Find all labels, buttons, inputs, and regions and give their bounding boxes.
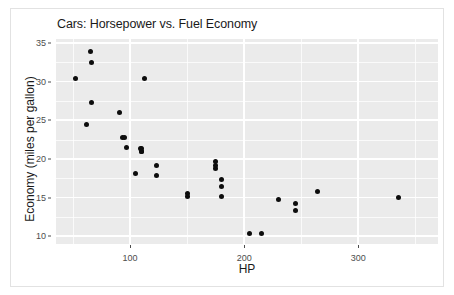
gridline-major-vertical <box>357 39 359 244</box>
y-tick-label: 25 <box>36 115 46 125</box>
scatter-point <box>124 145 129 150</box>
scatter-point <box>276 197 281 202</box>
scatter-point <box>315 189 320 194</box>
y-tick-label: 10 <box>36 231 46 241</box>
gridline-major-horizontal <box>56 158 438 160</box>
scatter-point <box>88 49 93 54</box>
gridline-minor-vertical <box>73 39 74 244</box>
gridline-minor-horizontal <box>56 178 438 179</box>
chart-title: Cars: Horsepower vs. Fuel Economy <box>57 17 257 31</box>
gridline-minor-horizontal <box>56 62 438 63</box>
y-tick-mark <box>48 158 51 159</box>
scatter-point <box>219 184 224 189</box>
gridline-major-vertical <box>243 39 245 244</box>
scatter-point <box>133 171 138 176</box>
scatter-point <box>213 159 218 164</box>
scatter-point <box>138 146 143 151</box>
scatter-point <box>293 201 298 206</box>
gridline-major-horizontal <box>56 235 438 237</box>
scatter-point <box>185 194 190 199</box>
scatter-point <box>396 195 401 200</box>
gridline-major-horizontal <box>56 81 438 83</box>
plot-panel <box>56 39 438 244</box>
gridline-major-horizontal <box>56 42 438 44</box>
scatter-point <box>219 194 224 199</box>
scatter-point <box>73 76 78 81</box>
scatter-point <box>84 122 89 127</box>
x-tick-mark <box>244 245 245 248</box>
gridline-minor-vertical <box>187 39 188 244</box>
scatter-point <box>154 163 159 168</box>
gridline-minor-horizontal <box>56 101 438 102</box>
x-axis-title: HP <box>56 262 438 276</box>
gridline-minor-vertical <box>301 39 302 244</box>
y-tick-label: 15 <box>36 193 46 203</box>
y-tick-mark <box>48 197 51 198</box>
scatter-point <box>117 110 122 115</box>
scatter-point <box>293 208 298 213</box>
y-axis-title: Economy (miles per gallon) <box>23 46 37 251</box>
chart-figure: Cars: Horsepower vs. Fuel Economy 101520… <box>10 8 444 287</box>
scatter-point <box>219 177 224 182</box>
scatter-point <box>259 231 264 236</box>
y-tick-mark <box>48 120 51 121</box>
gridline-major-horizontal <box>56 119 438 121</box>
gridline-minor-vertical <box>415 39 416 244</box>
y-tick-label: 20 <box>36 154 46 164</box>
x-tick-mark <box>358 245 359 248</box>
gridline-minor-horizontal <box>56 140 438 141</box>
scatter-point <box>122 135 127 140</box>
y-tick-mark <box>48 81 51 82</box>
y-tick-mark <box>48 236 51 237</box>
gridline-minor-horizontal <box>56 217 438 218</box>
y-tick-mark <box>48 42 51 43</box>
scatter-point <box>89 100 94 105</box>
x-tick-mark <box>130 245 131 248</box>
gridline-major-vertical <box>129 39 131 244</box>
y-tick-label: 30 <box>36 77 46 87</box>
scatter-point <box>89 60 94 65</box>
y-tick-label: 35 <box>36 38 46 48</box>
gridline-major-horizontal <box>56 197 438 199</box>
